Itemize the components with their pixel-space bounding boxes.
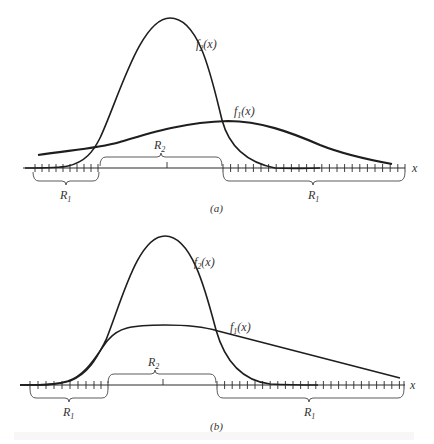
curve-f1 [20,325,400,385]
label-r1-left: R1 [59,188,71,204]
brace-r1-left [33,172,99,185]
label-f2: f2(x) [196,37,217,53]
panel-caption-a: (a) [210,202,223,215]
axis-label-x: x [409,378,416,392]
panel-a: x f2(x) f1(x) R2 R1 R1 (a) [23,18,418,215]
curve-f1 [38,121,392,164]
label-r1-right: R1 [303,405,315,421]
label-f1: f1(x) [230,320,251,336]
classification-regions-figure: x f2(x) f1(x) R2 R1 R1 (a) [0,0,434,444]
label-r1-left: R1 [62,405,74,421]
curve-f2 [25,18,320,168]
brace-r1-left [30,389,108,402]
brace-r1-right [223,172,405,185]
label-r2: R2 [147,355,159,371]
label-f1: f1(x) [234,104,255,120]
brace-r1-right [217,389,404,402]
label-r1-right: R1 [307,188,319,204]
panel-b: x f2(x) f1(x) R2 R1 R1 (b) [20,236,416,433]
label-r2: R2 [153,138,165,154]
brace-r2 [100,153,222,166]
axis-label-x: x [411,161,418,175]
brace-r2 [108,370,216,383]
label-f2: f2(x) [194,255,215,271]
faded-figure-caption [14,432,414,440]
curve-f2 [20,236,318,385]
